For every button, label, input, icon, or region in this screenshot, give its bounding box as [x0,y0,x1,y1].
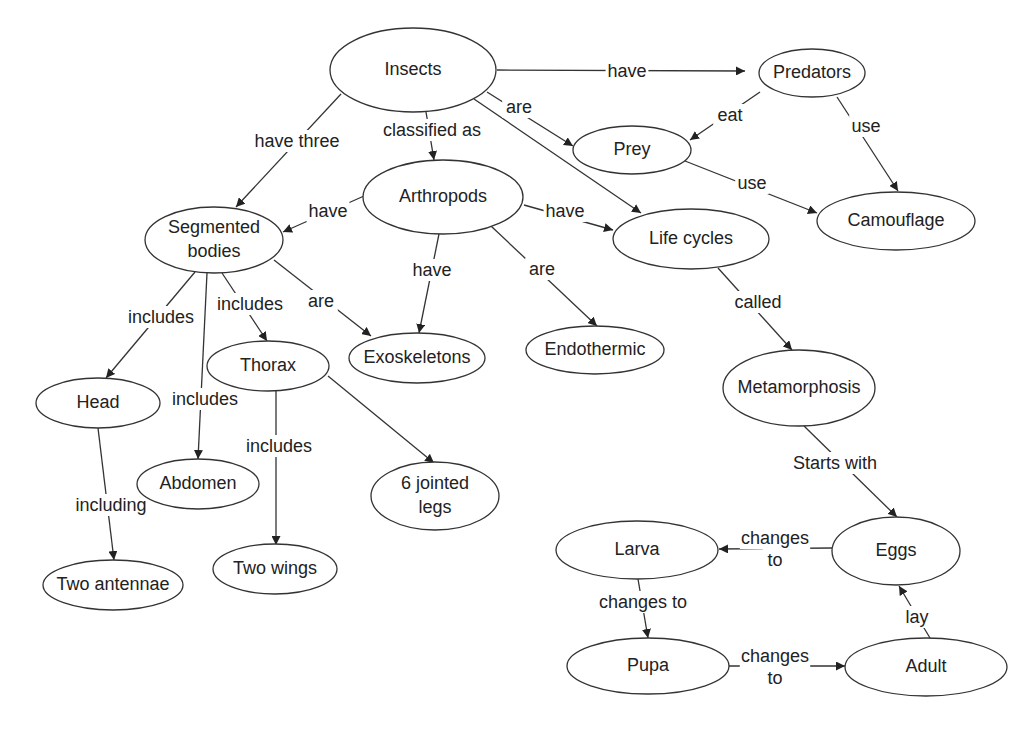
edge-label-text: are [506,97,532,117]
edge-label: use [735,172,769,194]
node-label: Insects [384,59,441,79]
edge-label-text: have [308,201,347,221]
node-label: Prey [613,139,650,159]
edge-label-text: have [607,61,646,81]
edge-label-text: includes [217,294,283,314]
node-label: Segmented [168,217,260,237]
edge-label: use [849,115,883,137]
node-segmented-bodies: Segmentedbodies [145,207,283,273]
node-label: Life cycles [649,228,733,248]
edge-predators-to-camouflage [837,97,898,191]
node-label: Head [76,392,119,412]
node-adult: Adult [845,638,1007,696]
edge-label: including [67,494,156,516]
edge-label: eat [713,104,747,126]
node-prey: Prey [573,126,691,174]
edge-label: includes [165,388,245,410]
node-label: Arthropods [399,186,487,206]
node-head: Head [36,378,160,428]
edge-label-text: classified as [383,120,481,140]
node-label: Larva [614,539,660,559]
edge-label-text: lay [905,607,928,627]
node-label: Two antennae [56,574,169,594]
node-label: Camouflage [847,210,944,230]
node-endothermic: Endothermic [526,326,664,374]
insects-concept-map: haveareclassified ashave threeeatuseuseh… [0,0,1034,738]
edge-label: changesto [740,527,810,571]
edge-label-text: to [767,550,782,570]
edge-label-text: changes [741,646,809,666]
edge-label-text: changes [741,528,809,548]
node-label: Two wings [233,558,317,578]
node-camouflage: Camouflage [817,192,975,250]
node-label: Predators [773,62,851,82]
node-arthropods: Arthropods [363,160,523,234]
edge-label-text: are [529,259,555,279]
edge-label-text: have three [254,131,339,151]
edge-label: are [525,258,559,280]
connector-arrow-icon [837,97,898,191]
edge-label: have [307,200,350,222]
edge-label: Starts with [781,452,888,474]
node-pupa: Pupa [567,638,729,694]
node-label: legs [418,497,451,517]
edge-label: includes [210,293,290,315]
edge-label: have [544,200,587,222]
edge-label-text: called [734,292,781,312]
edge-label: lay [900,606,934,628]
node-label: bodies [187,241,240,261]
edge-label: are [502,96,536,118]
edge-label-text: have [412,260,451,280]
connector-arrow-icon [198,273,207,459]
edge-label: includes [121,306,201,328]
edge-segmented-bodies-to-abdomen [198,273,207,459]
edge-label-text: Starts with [793,453,877,473]
edge-label-text: eat [717,105,742,125]
node-label: 6 jointed [401,473,469,493]
edge-arthropods-to-exoskeletons [419,234,439,333]
node-predators: Predators [759,49,865,97]
node-exoskeletons: Exoskeletons [349,333,485,383]
edge-label: changes to [594,591,692,613]
edge-label-text: use [737,173,766,193]
node-two-wings: Two wings [213,544,337,594]
edge-label-text: includes [128,307,194,327]
node-label: Exoskeletons [363,347,470,367]
node-larva: Larva [556,521,718,579]
edge-label: have [606,60,649,82]
edge-label-text: have [545,201,584,221]
edge-label-text: changes to [599,592,687,612]
edge-thorax-to-six-jointed-legs [328,376,434,463]
edge-label: includes [239,435,319,457]
edge-label: classified as [369,119,495,141]
edge-label: are [304,290,338,312]
edge-label-text: including [75,495,146,515]
node-life-cycles: Life cycles [613,209,769,269]
edge-label: have three [248,130,346,152]
edge-label-text: includes [172,389,238,409]
node-six-jointed-legs: 6 jointedlegs [371,462,499,530]
edge-label: called [727,291,788,313]
node-label: Eggs [875,540,916,560]
node-label: Pupa [627,655,670,675]
connector-arrow-icon [419,234,439,333]
node-metamorphosis: Metamorphosis [723,350,875,426]
connector-arrow-icon [328,376,434,463]
edge-label-text: use [851,116,880,136]
edge-label-text: to [767,668,782,688]
node-eggs: Eggs [832,517,960,585]
edge-label-text: are [308,291,334,311]
node-label: Adult [905,656,946,676]
node-abdomen: Abdomen [137,459,259,509]
node-label: Abdomen [159,473,236,493]
node-insects: Insects [330,28,496,112]
edge-label: changesto [740,645,810,689]
edge-label-text: includes [246,436,312,456]
node-two-antennae: Two antennae [43,560,183,610]
node-label: Endothermic [544,339,645,359]
node-label: Thorax [240,355,296,375]
node-thorax: Thorax [207,341,329,391]
edge-label: have [411,259,454,281]
node-label: Metamorphosis [737,377,860,397]
